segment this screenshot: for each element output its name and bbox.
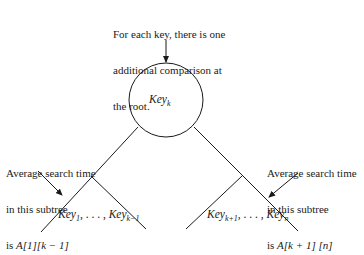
note-line: additional comparison at (113, 64, 225, 76)
left-subtree-keys: Key1, . . . , Keyk−1 (58, 208, 139, 223)
root-key-label: Keyk (149, 93, 170, 108)
note-line: For each key, there is one (113, 28, 225, 40)
right-subtree-keys: Keyk+1, . . . , Keyn (207, 208, 288, 223)
right-subtree-note: Average search time in this subtree is A… (267, 143, 357, 255)
left-subtree-note: Average search time in this subtree is A… (6, 143, 96, 255)
